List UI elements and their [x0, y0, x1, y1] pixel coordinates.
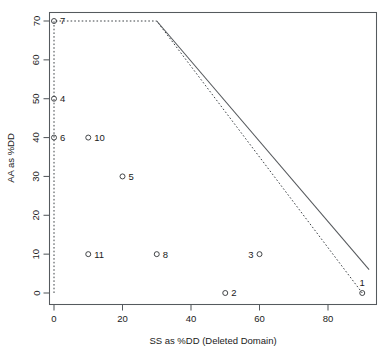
- data-point-marker: [86, 252, 91, 257]
- y-axis-title: AA as %DD: [5, 133, 16, 183]
- data-point: 10: [86, 132, 105, 143]
- data-point-label: 5: [129, 171, 134, 182]
- y-axis-ticks: [44, 21, 50, 293]
- data-point-label: 8: [163, 249, 168, 260]
- x-axis-tick-labels: 020406080: [51, 313, 333, 324]
- data-points-layer: 746105118321: [52, 15, 365, 298]
- data-point-label: 4: [60, 93, 65, 104]
- y-tick-label: 40: [31, 132, 42, 143]
- x-axis-title: SS as %DD (Deleted Domain): [149, 335, 276, 346]
- y-tick-label: 50: [31, 93, 42, 104]
- y-tick-label: 60: [31, 55, 42, 66]
- data-point-marker: [257, 252, 262, 257]
- plot-frame-box: [50, 13, 377, 305]
- data-point-label: 10: [94, 132, 105, 143]
- data-point: 4: [52, 93, 66, 104]
- scatter-plot-figure: 010203040506070 020406080 746105118321 S…: [0, 0, 385, 360]
- y-tick-label: 10: [31, 249, 42, 260]
- x-tick-label: 80: [323, 313, 334, 324]
- data-point-marker: [120, 174, 125, 179]
- y-tick-label: 70: [31, 16, 42, 27]
- x-tick-label: 40: [186, 313, 197, 324]
- y-tick-label: 0: [31, 290, 42, 295]
- plot-canvas: 010203040506070 020406080 746105118321 S…: [0, 0, 385, 360]
- data-point-label: 7: [60, 15, 65, 26]
- data-point-marker: [223, 291, 228, 296]
- data-point-label: 1: [360, 277, 365, 288]
- x-tick-label: 20: [117, 313, 128, 324]
- data-point: 5: [120, 171, 134, 182]
- data-point: 8: [154, 249, 168, 260]
- y-tick-label: 30: [31, 171, 42, 182]
- data-point-marker: [154, 252, 159, 257]
- data-point-marker: [86, 135, 91, 140]
- data-point-label: 11: [94, 249, 104, 260]
- data-point: 3: [248, 249, 262, 260]
- x-axis-ticks: [54, 305, 328, 311]
- data-point-label: 6: [60, 132, 65, 143]
- data-point: 7: [52, 15, 66, 26]
- x-tick-label: 0: [51, 313, 56, 324]
- data-point: 11: [86, 249, 104, 260]
- x-tick-label: 60: [254, 313, 265, 324]
- y-tick-label: 20: [31, 210, 42, 221]
- solid-tradeoff-boundary: [157, 21, 369, 270]
- y-axis-tick-labels: 010203040506070: [31, 16, 42, 296]
- data-point: 2: [223, 287, 237, 298]
- data-point-label: 3: [248, 249, 253, 260]
- data-point-label: 2: [231, 287, 236, 298]
